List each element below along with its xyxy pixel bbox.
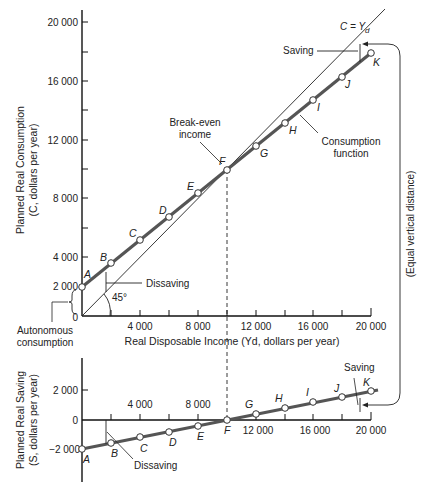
svg-text:(C, dollars per year): (C, dollars per year) [27, 124, 39, 217]
svg-text:16 000: 16 000 [47, 76, 78, 87]
svg-text:E: E [197, 430, 205, 442]
svg-text:G: G [245, 398, 253, 410]
top-x-axis-title: Real Disposable Income (Yd, dollars per … [125, 335, 340, 347]
top-arrowhead-icon [362, 42, 368, 47]
svg-text:8 000: 8 000 [53, 193, 78, 204]
svg-text:K: K [373, 56, 381, 68]
svg-text:J: J [333, 382, 340, 394]
svg-text:G: G [260, 147, 268, 159]
bottom-y-tick-labels: 2 000 0 −2 000 [49, 385, 80, 455]
bottom-dissaving-label: Dissaving [134, 460, 177, 471]
break-even-label-1: Break-even [169, 117, 220, 128]
svg-text:D: D [159, 204, 167, 216]
svg-text:D: D [169, 436, 177, 448]
svg-text:C: C [140, 442, 148, 454]
bottom-arrowhead-icon [362, 403, 368, 408]
svg-text:16 000: 16 000 [298, 321, 329, 332]
top-y-axis-title: Planned Real Consumption (C, dollars per… [14, 106, 39, 234]
svg-text:Planned Real Consumption: Planned Real Consumption [14, 106, 26, 234]
svg-text:Planned Real Saving: Planned Real Saving [14, 371, 26, 469]
top-x-ticks [111, 308, 371, 316]
svg-text:A: A [82, 453, 90, 465]
angle-arc [104, 294, 110, 316]
svg-text:H: H [289, 124, 297, 136]
svg-text:E: E [187, 180, 195, 192]
consumption-fn-leader [300, 115, 318, 133]
svg-text:B: B [111, 447, 118, 459]
svg-text:A: A [83, 268, 91, 280]
svg-text:2 000: 2 000 [53, 385, 78, 396]
svg-text:F: F [224, 424, 231, 436]
svg-text:20 000: 20 000 [356, 425, 387, 436]
bottom-chart: 2 000 0 −2 000 4 000 8 000 12 000 16 000… [14, 358, 387, 482]
svg-text:12 000: 12 000 [47, 135, 78, 146]
autonomous-leader [52, 302, 68, 322]
svg-text:12 000: 12 000 [243, 425, 274, 436]
bottom-saving-leader [354, 378, 358, 405]
top-dissaving-label: Dissaving [146, 278, 189, 289]
break-even-label-2: income [179, 129, 212, 140]
svg-text:16 000: 16 000 [300, 425, 331, 436]
svg-text:B: B [100, 251, 107, 263]
svg-text:J: J [344, 78, 351, 90]
c-equals-yd-label: C = Yd [340, 21, 370, 35]
svg-text:8 000: 8 000 [185, 321, 210, 332]
bottom-saving-label: Saving [344, 362, 375, 373]
svg-text:20 000: 20 000 [47, 17, 78, 28]
top-y-ticks [82, 22, 88, 257]
svg-text:4 000: 4 000 [127, 399, 152, 410]
autonomous-brace [69, 290, 76, 314]
equal-vertical-label: (Equal vertical distance) [405, 171, 416, 278]
top-chart: 20 000 16 000 12 000 8 000 4 000 2 000 0… [14, 9, 387, 420]
bottom-y-axis-title: Planned Real Saving (S, dollars per year… [14, 371, 39, 469]
top-saving-label: Saving [283, 45, 314, 56]
svg-text:−2 000: −2 000 [49, 444, 80, 455]
consumption-fn-label-2: function [333, 148, 368, 159]
svg-text:4 000: 4 000 [53, 252, 78, 263]
consumption-saving-chart: 20 000 16 000 12 000 8 000 4 000 2 000 0… [0, 0, 424, 485]
break-even-leader [200, 142, 222, 164]
svg-text:0: 0 [72, 415, 78, 426]
consumption-point-labels: A B C D E F G H I J K [83, 56, 381, 280]
svg-text:C: C [129, 227, 137, 239]
svg-text:8 000: 8 000 [185, 399, 210, 410]
svg-text:I: I [317, 101, 320, 113]
consumption-fn-label-1: Consumption [322, 136, 381, 147]
svg-text:H: H [275, 392, 283, 404]
top-x-tick-labels: 4 000 8 000 12 000 16 000 20 000 [127, 321, 386, 332]
svg-text:(S, dollars per year): (S, dollars per year) [27, 374, 39, 466]
svg-text:I: I [306, 386, 309, 398]
svg-text:20 000: 20 000 [356, 321, 387, 332]
autonomous-label-1: Autonomous [17, 325, 73, 336]
svg-text:K: K [363, 376, 371, 388]
svg-text:F: F [219, 155, 226, 167]
angle-label: 45° [112, 292, 127, 303]
autonomous-label-2: consumption [17, 337, 74, 348]
top-y-tick-labels: 20 000 16 000 12 000 8 000 4 000 2 000 0 [47, 17, 78, 323]
svg-text:4 000: 4 000 [127, 321, 152, 332]
svg-text:12 000: 12 000 [241, 321, 272, 332]
equal-vertical-distance-bracket: (Equal vertical distance) [362, 42, 416, 408]
